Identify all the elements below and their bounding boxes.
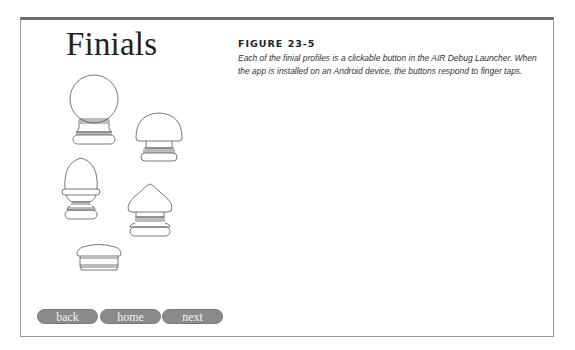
home-button[interactable]: home — [100, 309, 161, 324]
acorn-finial-icon — [61, 157, 101, 221]
figure-caption: Each of the finial profiles is a clickab… — [238, 52, 542, 78]
figure-label: FIGURE 23-5 — [238, 38, 315, 49]
mushroom-finial-icon — [133, 110, 185, 162]
next-button[interactable]: next — [162, 309, 223, 324]
pointed-dome-finial-icon — [125, 181, 175, 237]
flat-cap-finial-button[interactable] — [75, 240, 123, 272]
back-button[interactable]: back — [37, 309, 98, 324]
mushroom-finial-button[interactable] — [133, 110, 185, 162]
flat-cap-finial-icon — [75, 240, 123, 272]
pointed-dome-finial-button[interactable] — [125, 181, 175, 237]
acorn-finial-button[interactable] — [61, 157, 101, 221]
page-title: Finials — [66, 26, 157, 63]
ball-finial-icon — [66, 74, 122, 146]
ball-finial-button[interactable] — [66, 74, 122, 146]
